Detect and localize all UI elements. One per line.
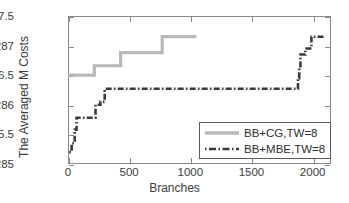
x-tick-label: 1500 bbox=[239, 166, 265, 178]
y-tick-label: 287.5 bbox=[0, 10, 14, 22]
x-axis-title: Branches bbox=[0, 181, 349, 195]
y-tick-label: 287 bbox=[0, 40, 14, 52]
x-tick-label: 2000 bbox=[300, 166, 326, 178]
legend-item-bb-mbe[interactable]: BB+MBE,TW=8 bbox=[204, 141, 326, 157]
legend-label-bb-cg: BB+CG,TW=8 bbox=[244, 127, 318, 139]
y-tick-label: 286 bbox=[0, 99, 14, 111]
y-tick-label: 286.5 bbox=[0, 69, 14, 81]
legend-swatch-solid bbox=[204, 127, 240, 139]
figure: The Averaged M Costs Branches BB+CG,TW=8… bbox=[0, 0, 349, 203]
y-tick-label: 285.5 bbox=[0, 128, 14, 140]
series-line-bb-cg bbox=[68, 37, 196, 75]
legend-swatch-dashdot bbox=[204, 143, 240, 155]
x-tick-label: 1000 bbox=[178, 166, 204, 178]
legend-label-bb-mbe: BB+MBE,TW=8 bbox=[244, 143, 325, 155]
legend[interactable]: BB+CG,TW=8 BB+MBE,TW=8 bbox=[199, 122, 331, 159]
y-axis-title: The Averaged M Costs bbox=[17, 21, 31, 173]
x-tick-label: 500 bbox=[120, 166, 139, 178]
x-tick-label: 0 bbox=[65, 166, 71, 178]
y-tick-label: 285 bbox=[0, 158, 14, 170]
legend-item-bb-cg[interactable]: BB+CG,TW=8 bbox=[204, 125, 326, 141]
y-tick-mark bbox=[325, 165, 330, 166]
